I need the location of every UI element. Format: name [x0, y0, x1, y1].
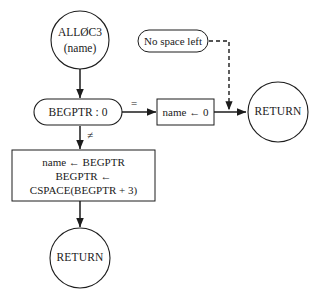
return-bottom-label: RETURN — [56, 251, 104, 263]
edge-label-equal: = — [131, 97, 137, 109]
start-label-line2: (name) — [64, 42, 97, 55]
flowchart-svg: ALLØC3 (name) BEGPTR : 0 = ≠ name ← 0 No… — [0, 0, 316, 300]
node-assign-zero: name ← 0 — [157, 99, 214, 125]
assign-zero-label: name ← 0 — [163, 106, 209, 118]
edge-label-not-equal: ≠ — [87, 129, 93, 141]
process-label-line3: CSPACE(BEGPTR + 3) — [30, 184, 138, 197]
process-label-line2: BEGPTR ← — [56, 170, 112, 182]
node-note: No space left — [138, 30, 208, 52]
node-return-bottom: RETURN — [50, 228, 110, 288]
flowchart-canvas: ALLØC3 (name) BEGPTR : 0 = ≠ name ← 0 No… — [0, 0, 316, 300]
node-start: ALLØC3 (name) — [51, 11, 109, 69]
start-label-line1: ALLØC3 — [58, 26, 102, 38]
node-decision: BEGPTR : 0 — [34, 99, 122, 125]
node-process: name ← BEGPTR BEGPTR ← CSPACE(BEGPTR + 3… — [12, 150, 155, 201]
start-circle — [51, 11, 109, 69]
process-label-line1: name ← BEGPTR — [42, 156, 125, 168]
decision-label: BEGPTR : 0 — [49, 106, 108, 118]
node-return-right: RETURN — [248, 82, 308, 142]
return-right-label: RETURN — [254, 105, 302, 117]
note-label: No space left — [144, 35, 202, 47]
